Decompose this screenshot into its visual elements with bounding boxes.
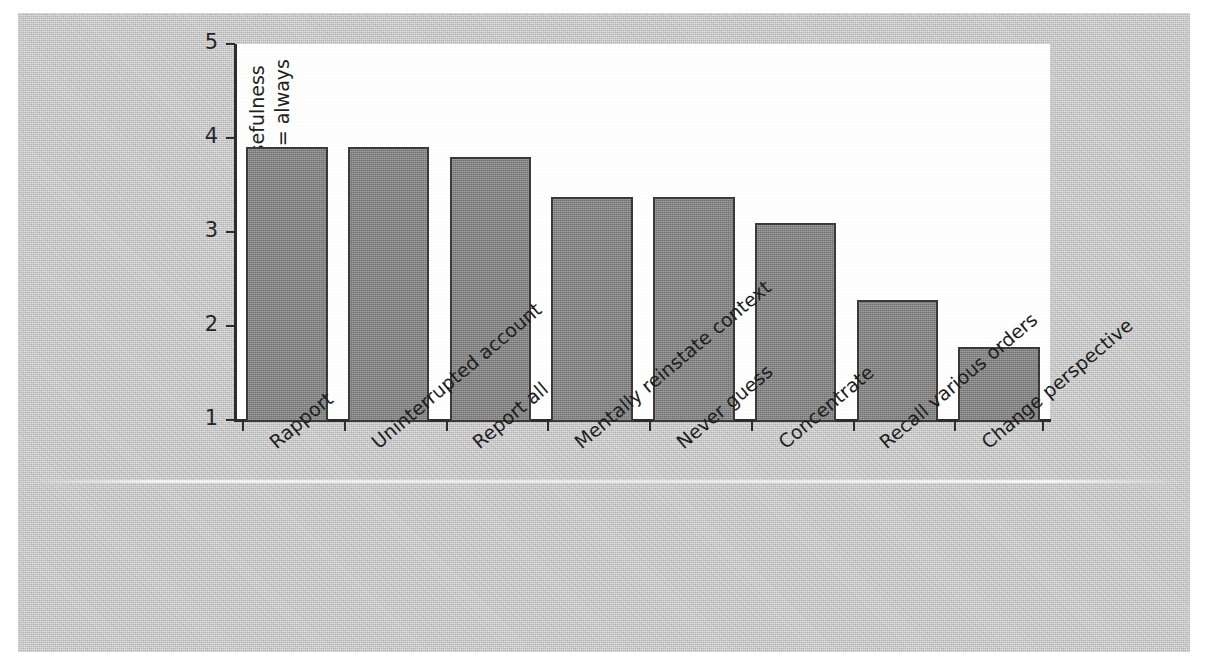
y-tick-mark bbox=[226, 43, 235, 45]
bar bbox=[551, 197, 632, 422]
y-tick-label: 3 bbox=[192, 218, 218, 242]
x-tick-mark bbox=[242, 422, 244, 431]
x-tick-mark bbox=[1042, 422, 1044, 431]
y-tick-label: 2 bbox=[192, 312, 218, 336]
x-tick-mark bbox=[344, 422, 346, 431]
bar bbox=[755, 223, 836, 422]
x-tick-mark bbox=[751, 422, 753, 431]
y-tick-label: 4 bbox=[192, 124, 218, 148]
y-axis-line bbox=[234, 44, 237, 422]
y-tick-mark bbox=[226, 419, 235, 421]
y-tick-label: 5 bbox=[192, 30, 218, 54]
figure-root: 12345 Perceived usefulness 1 = never, 5 … bbox=[0, 0, 1207, 671]
y-tick-mark bbox=[226, 137, 235, 139]
y-tick-mark bbox=[226, 325, 235, 327]
y-tick-mark bbox=[226, 231, 235, 233]
x-tick-mark bbox=[649, 422, 651, 431]
y-tick-label: 1 bbox=[192, 406, 218, 430]
x-tick-mark bbox=[853, 422, 855, 431]
bar bbox=[348, 147, 429, 422]
bar bbox=[246, 147, 327, 422]
x-tick-mark bbox=[954, 422, 956, 431]
x-tick-mark bbox=[446, 422, 448, 431]
scan-streak bbox=[18, 480, 1190, 483]
x-tick-mark bbox=[547, 422, 549, 431]
